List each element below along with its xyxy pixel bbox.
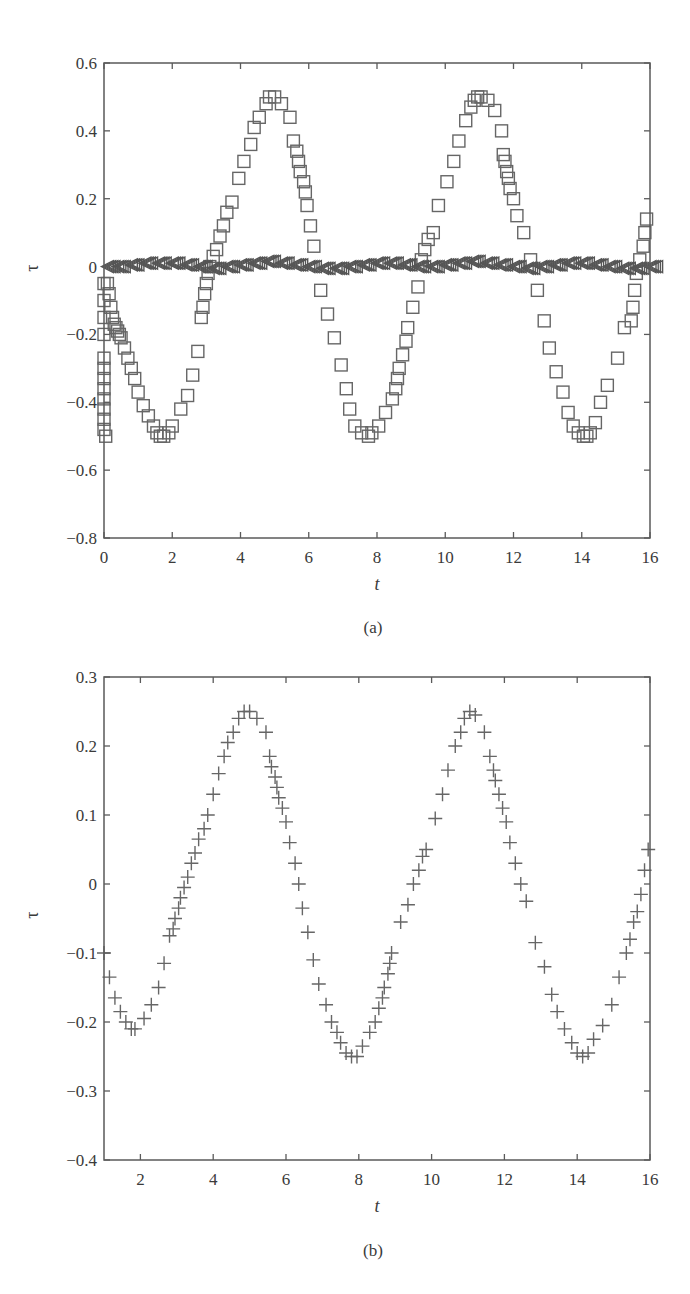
series-triangles [101,255,662,274]
plus-marker [188,846,202,860]
square-marker [432,200,444,212]
plus-marker [163,929,177,943]
x-tick-label: 8 [373,548,382,567]
square-marker [468,94,480,106]
plot-frame [104,63,650,538]
plus-marker [259,725,273,739]
x-tick-label: 16 [642,548,659,567]
plus-marker [401,898,415,912]
square-marker [163,427,175,439]
square-marker [211,244,223,256]
plus-marker [372,1001,386,1015]
x-tick-label: 2 [168,548,177,567]
plus-marker [483,749,497,763]
x-axis-b: 246810121416 [136,677,658,1189]
square-marker [151,427,163,439]
x-tick-label: 4 [236,548,245,567]
data-points-b [97,705,655,1064]
square-marker [245,138,257,150]
square-marker [175,403,187,415]
square-marker [304,220,316,232]
plus-marker [508,856,522,870]
x-tick-label: 6 [282,1170,291,1189]
x-tick-label: 10 [423,1170,440,1189]
square-marker [264,91,276,103]
plus-marker [166,922,180,936]
plus-marker [295,901,309,915]
square-marker [518,227,530,239]
plus-marker [514,877,528,891]
square-marker [427,227,439,239]
plus-marker [168,912,182,926]
square-marker [328,332,340,344]
plus-marker [377,981,391,995]
plus-marker [587,1032,601,1046]
plus-marker [157,956,171,970]
plus-marker [496,801,510,815]
plus-marker [454,725,468,739]
x-tick-label: 10 [437,548,454,567]
square-marker [601,379,613,391]
plus-marker [428,811,442,825]
square-marker [629,284,641,296]
plus-marker [128,1022,142,1036]
plot-frame [104,677,650,1160]
square-marker [308,240,320,252]
plus-marker [272,791,286,805]
square-marker [538,315,550,327]
plus-marker [528,936,542,950]
plus-marker [499,815,513,829]
y-tick-label: −0.4 [66,393,97,412]
square-marker [344,403,356,415]
y-tick-label: 0 [89,258,98,277]
plus-marker [184,856,198,870]
x-tick-label: 14 [569,1170,587,1189]
square-marker [639,227,651,239]
plus-marker [268,770,282,784]
plus-marker [441,763,455,777]
chart-panel-b: 2468101214160.30.20.10−0.1−0.2−0.3−0.4tτ… [22,668,659,1260]
square-marker [448,155,460,167]
plus-marker [263,749,277,763]
square-marker [618,322,630,334]
square-marker [572,427,584,439]
square-marker [496,125,508,137]
square-marker [315,284,327,296]
square-marker [238,155,250,167]
plus-marker [319,998,333,1012]
square-marker [627,301,639,313]
plus-marker [416,849,430,863]
plus-marker [264,760,278,774]
square-marker [182,390,194,402]
series-plus [97,705,655,1064]
square-marker [441,176,453,188]
plus-marker [270,780,284,794]
plus-marker [419,843,433,857]
plus-marker [623,932,637,946]
panel-label: (a) [364,618,383,637]
plus-marker [641,843,655,857]
plus-marker [152,981,166,995]
y-tick-label: 0.2 [76,190,97,209]
plus-marker [545,987,559,1001]
plus-marker [292,877,306,891]
y-tick-label: −0.3 [66,1082,97,1101]
square-marker [562,406,574,418]
square-marker [269,91,281,103]
plus-marker [612,970,626,984]
square-marker [132,386,144,398]
plus-marker [301,925,315,939]
square-marker [625,315,637,327]
square-marker [260,98,272,110]
plus-marker [212,767,226,781]
y-tick-label: −0.1 [66,944,97,963]
x-axis-a: 0246810121416 [100,63,659,567]
square-marker [335,359,347,371]
plus-marker [627,915,641,929]
plus-marker [550,1005,564,1019]
square-marker [340,383,352,395]
plus-marker [250,711,264,725]
x-tick-label: 12 [496,1170,513,1189]
y-tick-label: −0.8 [66,529,97,548]
square-marker [397,349,409,361]
